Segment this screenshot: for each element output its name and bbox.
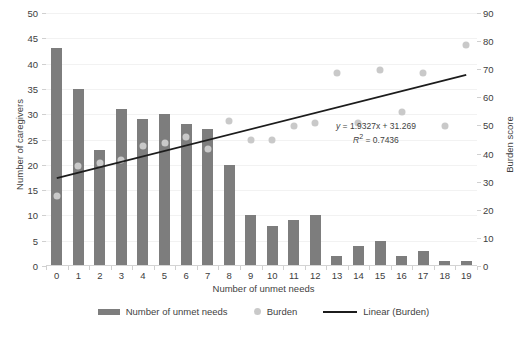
y-axis-right-tick-label: 0 [483, 261, 517, 272]
legend-bar-swatch [98, 309, 120, 315]
y-axis-right-tick [477, 125, 481, 126]
y-axis-right-tick-label: 90 [483, 8, 517, 19]
x-axis-tick [46, 266, 47, 270]
r-squared-body: = 0.7436 [363, 135, 399, 145]
x-axis-tick [412, 266, 413, 270]
x-axis-tick-label: 17 [411, 270, 435, 281]
x-axis-tick-label: 5 [153, 270, 177, 281]
x-axis-tick-label: 19 [454, 270, 478, 281]
y-axis-right-tick [477, 97, 481, 98]
y-axis-right-tick-label: 20 [483, 204, 517, 215]
y-axis-right-tick [477, 266, 481, 267]
equation-line: y = 1.9327x + 31.269 [336, 120, 416, 132]
y-axis-left-tick [42, 89, 46, 90]
x-axis-tick-label: 14 [346, 270, 370, 281]
x-axis-tick [175, 266, 176, 270]
x-axis-tick [305, 266, 306, 270]
legend-item[interactable]: Linear (Burden) [323, 306, 429, 317]
y-axis-right-tick-label: 30 [483, 176, 517, 187]
x-axis-tick-label: 11 [282, 270, 306, 281]
y-axis-left-tick-label: 30 [4, 109, 38, 120]
y-axis-left-tick [42, 114, 46, 115]
y-axis-left-tick [42, 13, 46, 14]
y-axis-left-tick-label: 25 [4, 134, 38, 145]
x-axis-tick [132, 266, 133, 270]
x-axis-tick-label: 7 [196, 270, 220, 281]
y-axis-right-tick [477, 154, 481, 155]
x-axis-tick [218, 266, 219, 270]
y-axis-left-tick [42, 165, 46, 166]
y-axis-left-tick-label: 35 [4, 83, 38, 94]
legend-item-label: Number of unmet needs [126, 306, 228, 317]
x-axis-tick [348, 266, 349, 270]
r-squared-line: R2 = 0.7436 [336, 132, 416, 146]
y-axis-right-tick [477, 69, 481, 70]
x-axis-tick [197, 266, 198, 270]
x-axis-tick-label: 1 [66, 270, 90, 281]
equation-body: = 1.9327x + 31.269 [340, 121, 416, 131]
y-axis-left-tick [42, 241, 46, 242]
x-axis-tick-label: 12 [303, 270, 327, 281]
y-axis-right-tick-label: 60 [483, 92, 517, 103]
y-axis-right-tick-label: 10 [483, 232, 517, 243]
x-axis-tick-label: 2 [88, 270, 112, 281]
y-axis-left-tick-label: 15 [4, 185, 38, 196]
x-axis-tick [434, 266, 435, 270]
y-axis-right-tick [477, 210, 481, 211]
legend-dot-swatch [254, 308, 261, 315]
y-axis-left-tick-label: 20 [4, 159, 38, 170]
y-axis-left-tick [42, 140, 46, 141]
x-axis-tick [391, 266, 392, 270]
y-axis-left-tick-label: 40 [4, 58, 38, 69]
x-axis-tick [111, 266, 112, 270]
regression-equation-annotation: y = 1.9327x + 31.269 R2 = 0.7436 [336, 120, 416, 146]
x-axis-tick [154, 266, 155, 270]
legend-item[interactable]: Number of unmet needs [98, 306, 228, 317]
y-axis-left-tick-label: 45 [4, 33, 38, 44]
x-axis-tick-label: 8 [217, 270, 241, 281]
legend-item[interactable]: Burden [254, 306, 298, 317]
x-axis-tick [283, 266, 284, 270]
y-axis-left-tick [42, 190, 46, 191]
x-axis-tick-label: 3 [109, 270, 133, 281]
y-axis-right-tick-label: 80 [483, 36, 517, 47]
y-axis-right-tick [477, 41, 481, 42]
x-axis-tick [262, 266, 263, 270]
x-axis-tick-label: 10 [260, 270, 284, 281]
x-axis-tick-label: 16 [390, 270, 414, 281]
y-axis-left-tick [42, 38, 46, 39]
x-axis-tick [455, 266, 456, 270]
y-axis-right-tick-label: 40 [483, 148, 517, 159]
x-axis-tick-label: 15 [368, 270, 392, 281]
y-axis-right-tick [477, 238, 481, 239]
x-axis-tick-label: 4 [131, 270, 155, 281]
y-axis-right-tick [477, 182, 481, 183]
y-axis-right-tick [477, 13, 481, 14]
x-axis-tick-label: 0 [45, 270, 69, 281]
x-axis-tick [89, 266, 90, 270]
y-axis-left-tick-label: 0 [4, 261, 38, 272]
y-axis-left-tick [42, 266, 46, 267]
chart-container: Number of caregivers Burden score Number… [0, 0, 527, 338]
y-axis-right-tick-label: 50 [483, 120, 517, 131]
x-axis-tick-label: 9 [239, 270, 263, 281]
legend-item-label: Linear (Burden) [363, 306, 429, 317]
chart-legend: Number of unmet needsBurdenLinear (Burde… [0, 306, 527, 317]
x-axis-tick-label: 18 [433, 270, 457, 281]
legend-item-label: Burden [267, 306, 298, 317]
x-axis-tick [68, 266, 69, 270]
y-axis-left-tick-label: 5 [4, 235, 38, 246]
legend-line-swatch [323, 311, 357, 313]
y-axis-left-tick [42, 64, 46, 65]
y-axis-left-tick [42, 215, 46, 216]
x-axis-title: Number of unmet needs [0, 283, 527, 294]
x-axis-tick [240, 266, 241, 270]
y-axis-right-tick-label: 70 [483, 64, 517, 75]
x-axis-tick [326, 266, 327, 270]
x-axis-tick [369, 266, 370, 270]
y-axis-left-tick-label: 50 [4, 8, 38, 19]
x-axis-tick-label: 13 [325, 270, 349, 281]
x-axis-tick-label: 6 [174, 270, 198, 281]
y-axis-left-tick-label: 10 [4, 210, 38, 221]
